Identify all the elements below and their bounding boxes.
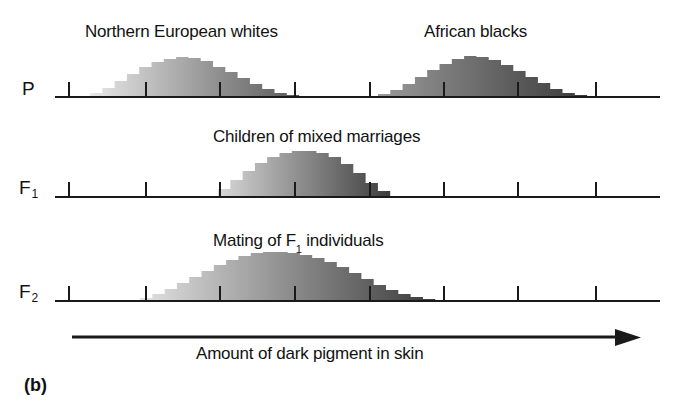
histogram-p-0 <box>90 57 299 97</box>
histogram-bars-layer <box>90 56 587 301</box>
axis-caption-amount-of-dark-pigment: Amount of dark pigment in skin <box>196 344 423 364</box>
panel-caption-b: (b) <box>24 375 47 396</box>
histogram-f1-2 <box>218 151 390 197</box>
histogram-p-1 <box>378 56 587 97</box>
histogram-f2-3 <box>140 252 435 301</box>
figure-panel-b: Northern European whites African blacks … <box>0 0 682 403</box>
